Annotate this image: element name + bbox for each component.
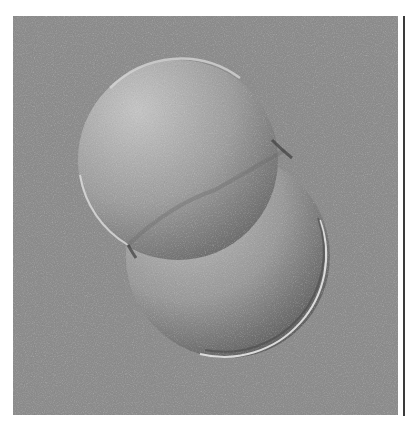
blastomere-upper-left bbox=[78, 59, 278, 260]
micrograph-frame bbox=[13, 16, 398, 415]
embryo-micrograph bbox=[13, 16, 398, 415]
edge-rule bbox=[403, 16, 405, 416]
